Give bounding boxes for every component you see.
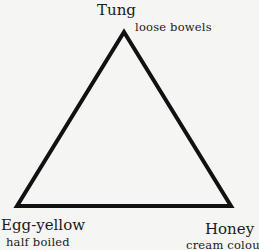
triangle-shape — [17, 32, 231, 206]
vertex-top-description: loose bowels — [135, 20, 212, 34]
vertex-bottom-left-description: half boiled — [6, 235, 70, 249]
vertex-bottom-right-description: cream colour — [186, 238, 259, 250]
vertex-top-name: Tung — [97, 1, 136, 19]
vertex-bottom-left-name: Egg-yellow — [1, 216, 85, 234]
triangle-diagram — [0, 0, 259, 250]
vertex-bottom-right-name: Honey — [205, 220, 254, 238]
